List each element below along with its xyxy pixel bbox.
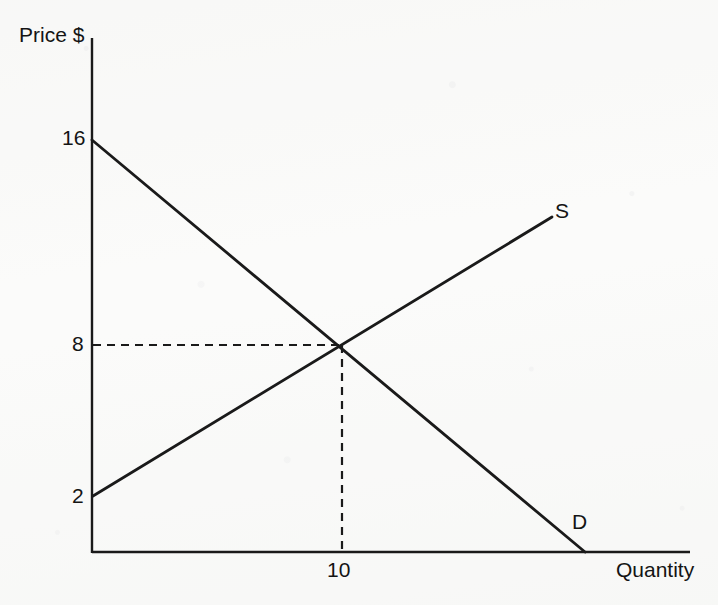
y-tick-label-8: 8 <box>72 333 84 354</box>
x-tick-label-10: 10 <box>327 559 350 580</box>
supply-curve-label: S <box>555 200 569 221</box>
demand-curve-label: D <box>572 511 587 532</box>
y-tick-label-16: 16 <box>62 127 85 148</box>
chart-canvas <box>0 0 718 605</box>
y-axis-title: Price $ <box>19 24 84 45</box>
y-tick-label-2: 2 <box>72 485 84 506</box>
supply-curve-line <box>93 217 552 496</box>
x-axis-title: Quantity <box>616 559 694 580</box>
supply-demand-chart-figure: Price $ Quantity 16 8 2 10 S D <box>0 0 718 605</box>
